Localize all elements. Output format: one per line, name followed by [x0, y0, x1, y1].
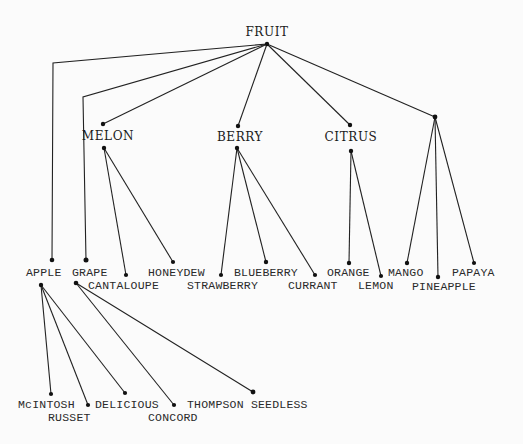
node-dot-melon-top — [101, 122, 105, 126]
edge-berry-blueberry — [237, 148, 266, 262]
edge-berry-strawberry — [221, 148, 237, 275]
node-dot-fruit — [265, 42, 269, 46]
edge-tropical-mango — [407, 117, 435, 263]
edge-tropical-papaya — [435, 117, 474, 263]
node-dot-thompson — [251, 390, 256, 395]
node-dot-berry-top — [236, 124, 240, 128]
label-mcintosh: McINTOSH — [18, 398, 75, 411]
node-dot-honeydew — [171, 260, 175, 264]
label-delicious: DELICIOUS — [95, 398, 159, 411]
edge-grape-thompson — [76, 283, 253, 392]
fruit-tree-diagram: FRUIT MELON BERRY CITRUS APPLE GRAPE CAN… — [0, 0, 523, 444]
node-dot-currant — [313, 273, 317, 277]
edge-fruit-citrus — [267, 44, 350, 125]
edges — [41, 44, 474, 405]
node-dot-delicious — [123, 391, 127, 395]
label-orange: ORANGE — [327, 266, 370, 279]
label-honeydew: HONEYDEW — [148, 266, 205, 279]
node-dot-russet — [86, 403, 90, 407]
label-strawberry: STRAWBERRY — [187, 279, 258, 292]
node-dots — [39, 42, 476, 407]
node-dot-citrus-top — [348, 123, 352, 127]
edge-fruit-tropical — [267, 44, 435, 117]
node-dot-tropical — [433, 115, 438, 120]
node-dot-melon-bottom — [102, 146, 106, 150]
node-dot-blueberry — [264, 260, 268, 264]
node-dot-lemon — [379, 274, 383, 278]
edge-berry-currant — [237, 148, 315, 275]
label-citrus: CITRUS — [325, 130, 378, 144]
node-dot-pineapple — [436, 275, 440, 279]
node-dot-berry-bottom — [235, 146, 239, 150]
label-berry: BERRY — [217, 130, 264, 144]
node-dot-orange — [347, 261, 351, 265]
label-mango: MANGO — [388, 266, 424, 279]
label-melon: MELON — [82, 129, 134, 143]
edge-grape-concord — [76, 283, 174, 405]
node-dot-grape-top — [84, 258, 89, 263]
edge-citrus-orange — [349, 151, 351, 263]
node-dot-apple-bottom — [39, 283, 43, 287]
edge-tropical-pineapple — [435, 117, 438, 277]
label-cantaloupe: CANTALOUPE — [88, 279, 159, 292]
edge-apple-mcintosh — [41, 285, 51, 394]
label-fruit: FRUIT — [245, 25, 288, 39]
node-dot-grape-bottom — [74, 281, 79, 286]
node-dot-apple-top — [50, 258, 55, 263]
node-dot-cantaloupe — [124, 273, 128, 277]
node-dot-papaya — [472, 261, 476, 265]
edge-apple-delicious — [41, 285, 125, 393]
label-grape: GRAPE — [72, 266, 108, 279]
edge-apple-russet — [41, 285, 88, 405]
node-dot-mcintosh — [49, 392, 53, 396]
label-pineapple: PINEAPPLE — [412, 280, 476, 293]
label-thompson-seedless: THOMPSON SEEDLESS — [187, 398, 308, 411]
label-papaya: PAPAYA — [452, 266, 495, 279]
label-currant: CURRANT — [288, 279, 338, 292]
label-apple: APPLE — [26, 266, 62, 279]
node-dot-mango — [405, 261, 409, 265]
node-dot-concord — [172, 403, 176, 407]
label-lemon: LEMON — [358, 279, 394, 292]
label-blueberry: BLUEBERRY — [234, 266, 298, 279]
node-dot-citrus-bottom — [349, 149, 353, 153]
label-concord: CONCORD — [148, 411, 198, 424]
edge-citrus-lemon — [351, 151, 381, 276]
label-russet: RUSSET — [48, 411, 91, 424]
node-dot-strawberry — [219, 273, 223, 277]
